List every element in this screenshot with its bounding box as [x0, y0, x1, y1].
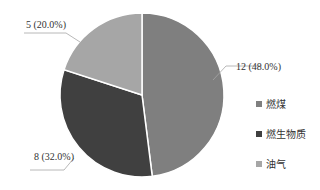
legend-label: 燃生物质 — [266, 126, 306, 141]
data-label: 8 (32.0%) — [34, 151, 74, 163]
legend-label: 油气 — [266, 156, 286, 171]
legend-item-biomass: 燃生物质 — [256, 126, 306, 141]
legend-item-coal: 燃煤 — [256, 96, 286, 111]
legend-swatch — [256, 131, 262, 137]
slice-coal — [142, 13, 224, 176]
legend-label: 燃煤 — [266, 96, 286, 111]
legend-swatch — [256, 101, 262, 107]
data-label: 5 (20.0%) — [26, 19, 66, 31]
legend-item-oil-gas: 油气 — [256, 156, 286, 171]
legend-swatch — [256, 161, 262, 167]
data-label: 12 (48.0%) — [236, 61, 281, 73]
leader-line — [24, 33, 80, 42]
